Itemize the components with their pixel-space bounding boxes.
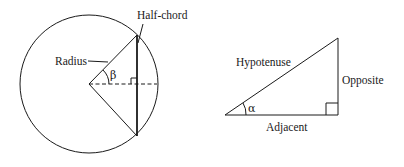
angle-arc-beta — [103, 70, 109, 84]
radius-label: Radius — [55, 55, 87, 67]
radius-leader — [88, 61, 108, 62]
right-triangle — [225, 38, 338, 115]
hypotenuse-label: Hypotenuse — [236, 56, 291, 69]
circle-figure — [20, 15, 158, 153]
right-angle-marker-triangle — [326, 103, 338, 115]
trig-diagram: Half-chord Radius β Hypotenuse Opposite … — [0, 0, 404, 167]
half-chord-label: Half-chord — [137, 9, 188, 21]
angle-arc-alpha — [243, 103, 246, 115]
beta-label: β — [110, 69, 116, 82]
radius-bottom — [89, 84, 137, 136]
triangle-figure — [225, 38, 338, 115]
opposite-label: Opposite — [342, 74, 384, 87]
alpha-label: α — [248, 102, 256, 115]
adjacent-label: Adjacent — [266, 121, 308, 134]
